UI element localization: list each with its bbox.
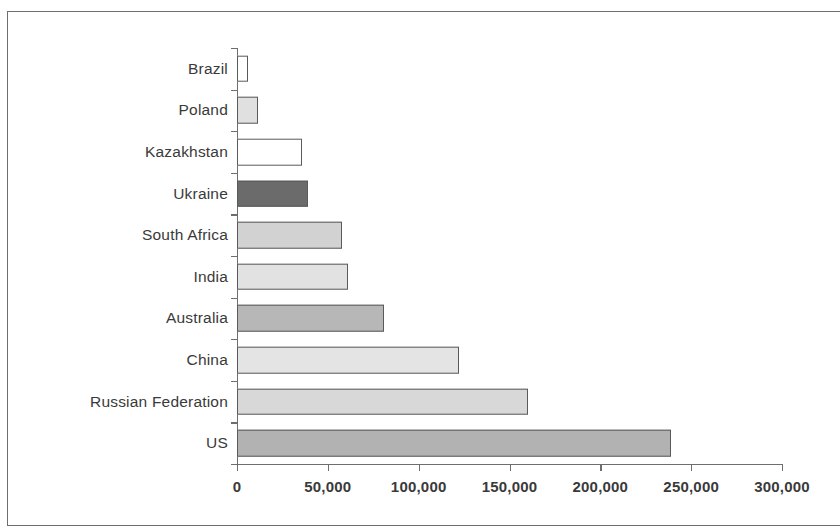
category-label-australia: Australia	[0, 309, 228, 327]
category-label-south-africa: South Africa	[0, 226, 228, 244]
x-axis-tick-label: 0	[233, 478, 242, 495]
category-label-china: China	[0, 351, 228, 369]
x-axis-tick	[510, 464, 511, 471]
x-axis-tick-label: 100,000	[391, 478, 447, 495]
bar-kazakhstan	[237, 139, 302, 166]
y-axis-tick	[231, 131, 237, 132]
bar-poland	[237, 97, 258, 124]
y-axis-tick	[231, 298, 237, 299]
y-axis-tick	[231, 48, 237, 49]
x-axis-tick-label: 250,000	[663, 478, 719, 495]
category-label-brazil: Brazil	[0, 60, 228, 78]
bar-south-africa	[237, 222, 342, 249]
y-axis-tick	[231, 214, 237, 215]
chart-figure: BrazilPolandKazakhstanUkraineSouth Afric…	[0, 0, 840, 531]
category-label-kazakhstan: Kazakhstan	[0, 143, 228, 161]
x-axis-tick	[600, 464, 601, 471]
y-axis-tick	[231, 256, 237, 257]
category-label-poland: Poland	[0, 101, 228, 119]
x-axis-tick	[328, 464, 329, 471]
category-label-russian-federation: Russian Federation	[0, 393, 228, 411]
y-axis-tick	[231, 90, 237, 91]
bar-us	[237, 430, 671, 457]
x-axis-tick	[782, 464, 783, 471]
bar-russian-federation	[237, 388, 528, 415]
bar-brazil	[237, 55, 248, 82]
x-axis-tick-label: 300,000	[754, 478, 810, 495]
bar-ukraine	[237, 180, 308, 207]
category-label-us: US	[0, 434, 228, 452]
bar-chart-plot-area: BrazilPolandKazakhstanUkraineSouth Afric…	[0, 0, 840, 531]
bar-china	[237, 347, 459, 374]
x-axis-tick	[419, 464, 420, 471]
x-axis-tick	[691, 464, 692, 471]
category-label-ukraine: Ukraine	[0, 185, 228, 203]
x-axis-tick	[237, 464, 238, 471]
category-label-india: India	[0, 268, 228, 286]
y-axis-tick	[231, 173, 237, 174]
y-axis-tick	[231, 339, 237, 340]
bar-australia	[237, 305, 384, 332]
y-axis-tick	[231, 381, 237, 382]
x-axis-tick-label: 150,000	[482, 478, 538, 495]
x-axis-tick-label: 50,000	[304, 478, 351, 495]
x-axis-tick-label: 200,000	[573, 478, 629, 495]
bar-india	[237, 263, 348, 290]
y-axis-tick	[231, 422, 237, 423]
